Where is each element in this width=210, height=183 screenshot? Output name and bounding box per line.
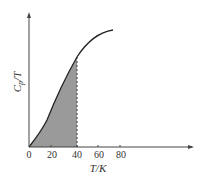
x-tick-0: 0 xyxy=(27,149,32,160)
x-tick-60: 60 xyxy=(94,149,104,160)
x-axis-arrow-icon xyxy=(188,145,194,149)
x-axis-label: T/K xyxy=(90,162,107,174)
y-axis-label: Cp/T xyxy=(11,71,25,92)
x-tick-80: 80 xyxy=(116,149,126,160)
chart: 0 20 40 60 80 T/K Cp/T xyxy=(0,0,210,183)
y-axis-arrow-icon xyxy=(27,12,31,18)
x-tick-20: 20 xyxy=(47,149,57,160)
x-tick-40: 40 xyxy=(72,149,82,160)
